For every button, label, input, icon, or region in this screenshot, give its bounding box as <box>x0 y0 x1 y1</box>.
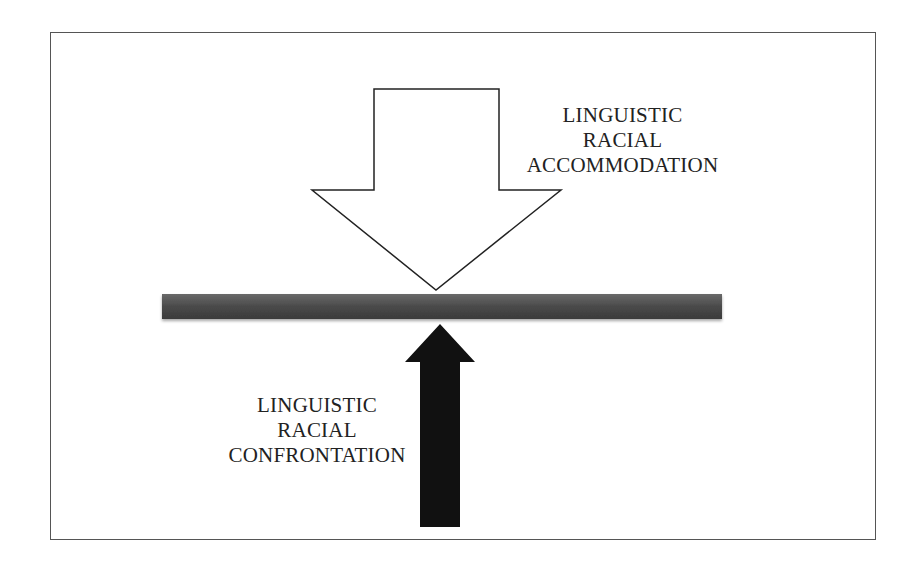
label-line: LINGUISTIC <box>505 103 740 128</box>
label-confrontation: LINGUISTIC RACIAL CONFRONTATION <box>212 393 422 468</box>
label-line: ACCOMMODATION <box>505 153 740 178</box>
label-line: RACIAL <box>212 418 422 443</box>
label-line: RACIAL <box>505 128 740 153</box>
barrier-bar <box>162 294 722 319</box>
diagram-canvas <box>0 0 924 569</box>
label-line: LINGUISTIC <box>212 393 422 418</box>
label-line: CONFRONTATION <box>212 443 422 468</box>
label-accommodation: LINGUISTIC RACIAL ACCOMMODATION <box>505 103 740 178</box>
